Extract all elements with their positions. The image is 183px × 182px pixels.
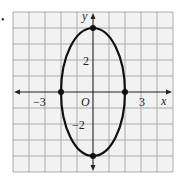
origin-label: O [81,95,90,109]
tick-label-neg3: −3 [33,95,46,109]
x-axis-label: x [160,94,167,108]
point-0-neg4 [90,153,96,159]
tick-label-neg2: −2 [72,118,85,132]
ellipse-graph: • y [0,0,183,182]
y-axis-label: y [81,9,88,23]
tick-label-3: 3 [139,95,145,109]
bullet-marker: • [1,14,5,25]
point-0-4 [90,25,96,31]
tick-label-2: 2 [83,54,89,68]
point-2-0 [122,89,128,95]
point-neg2-0 [58,89,64,95]
